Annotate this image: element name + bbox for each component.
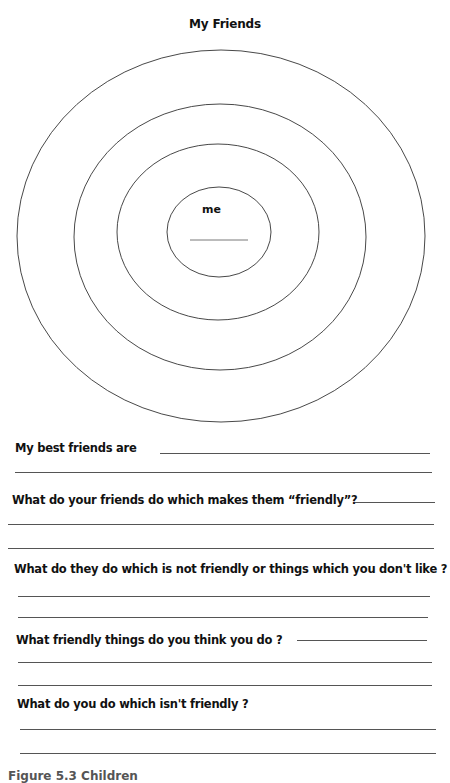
answer-line[interactable] — [15, 472, 432, 473]
answer-line[interactable] — [297, 640, 427, 641]
question-my-unfriendly-things: What do you do which isn't friendly ? — [17, 697, 248, 711]
question-my-friendly-things: What friendly things do you think you do… — [16, 633, 282, 647]
answer-line[interactable] — [8, 548, 434, 549]
answer-line[interactable] — [355, 502, 435, 503]
me-label: me — [202, 203, 221, 216]
answer-line[interactable] — [18, 662, 432, 663]
answer-line[interactable] — [8, 524, 434, 525]
answer-line[interactable] — [20, 753, 436, 754]
question-unfriendly-actions: What do they do which is not friendly or… — [14, 562, 447, 576]
answer-line[interactable] — [160, 453, 430, 454]
outer-ring — [17, 50, 425, 422]
answer-line[interactable] — [18, 685, 432, 686]
answer-line[interactable] — [18, 617, 428, 618]
answer-line[interactable] — [18, 596, 430, 597]
inner-ring-me — [167, 187, 271, 277]
question-friendly-actions: What do your friends do which makes them… — [12, 493, 357, 507]
friendship-circles-diagram — [0, 0, 450, 440]
third-ring — [117, 144, 319, 320]
answer-line[interactable] — [20, 729, 436, 730]
figure-caption: Figure 5.3 Children — [8, 769, 138, 783]
question-best-friends: My best friends are — [15, 441, 137, 455]
